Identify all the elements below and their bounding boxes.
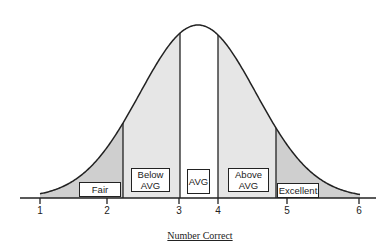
tick-label: 2: [104, 205, 110, 216]
tick-label: 6: [356, 205, 362, 216]
band-label-avg: AVG: [187, 169, 210, 194]
excellent-text: Excellent: [279, 185, 318, 196]
above-avg-line1: Above: [235, 169, 262, 180]
x-axis-label: Number Correct: [0, 230, 390, 241]
band-label-fair: Fair: [79, 182, 121, 197]
avg-text: AVG: [189, 176, 208, 187]
band-label-below-avg: Below AVG: [131, 168, 170, 192]
band-label-excellent: Excellent: [277, 183, 319, 198]
above-avg-line2: AVG: [239, 180, 258, 191]
band-label-above-avg: Above AVG: [228, 168, 269, 192]
below-avg-line1: Below: [138, 169, 164, 180]
x-axis-label-text: Number Correct: [167, 230, 232, 241]
tick-label: 4: [215, 205, 221, 216]
fair-text: Fair: [92, 184, 108, 195]
tick-label: 1: [37, 205, 43, 216]
below-avg-line2: AVG: [141, 180, 160, 191]
bell-curve: [0, 0, 390, 250]
bell-curve-diagram: Fair Below AVG AVG Above AVG Excellent 1…: [0, 0, 390, 250]
tick-label: 3: [176, 205, 182, 216]
tick-label: 5: [284, 205, 290, 216]
